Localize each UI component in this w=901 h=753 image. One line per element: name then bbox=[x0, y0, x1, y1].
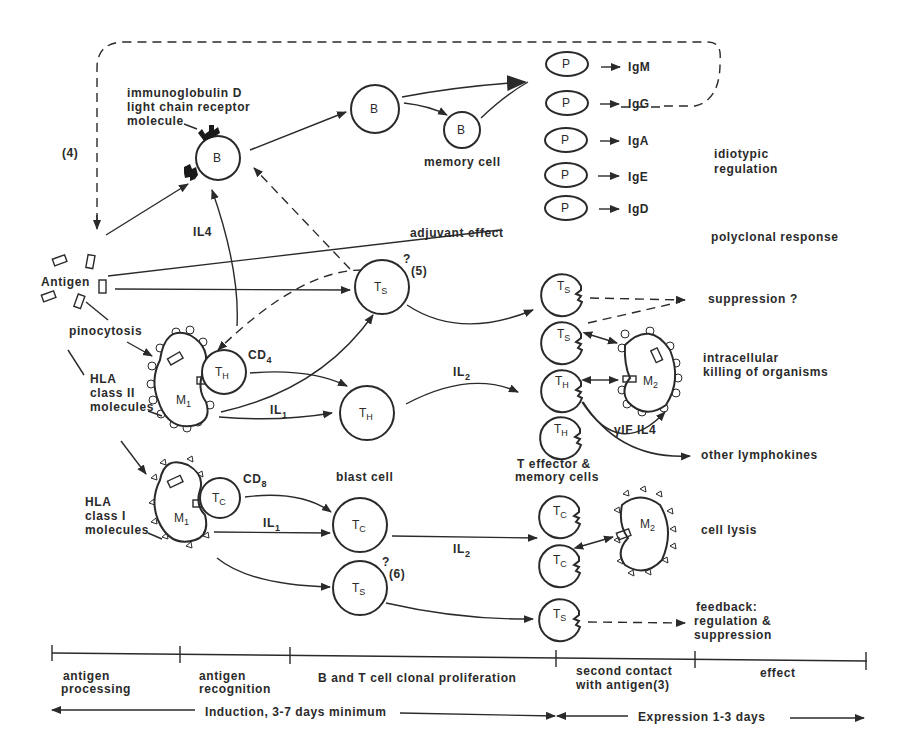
svg-text:IgG: IgG bbox=[628, 97, 650, 111]
plasma-cell-iga: P IgA bbox=[545, 128, 649, 152]
igd-receptor-icon bbox=[184, 164, 198, 181]
hla-class-ii-label-3: molecules bbox=[90, 400, 154, 414]
phase-antigen-processing: antigen bbox=[63, 669, 110, 683]
il1-lower-label: IL1 bbox=[263, 516, 280, 533]
svg-text:B: B bbox=[457, 123, 465, 137]
th-cell-on-m1: TH bbox=[202, 350, 246, 394]
effector-ts-cell-2: TS bbox=[541, 322, 582, 364]
antigen-label: Antigen bbox=[41, 275, 90, 289]
effector-th-cell-2: TH bbox=[540, 417, 581, 459]
phase-second-contact: second contact bbox=[576, 664, 672, 678]
immune-response-diagram: (4) B immunoglobulin D light chain recep… bbox=[0, 0, 901, 753]
hla-class-ii-label: HLA bbox=[90, 372, 116, 386]
hla-class-i-label-3: molecules bbox=[85, 523, 149, 537]
plasma-cell-igd: P IgD bbox=[545, 196, 649, 220]
suppression-label: suppression ? bbox=[708, 292, 798, 306]
cd4-label: CD4 bbox=[248, 348, 272, 365]
adjuvant-effect-label: adjuvant effect bbox=[410, 226, 504, 240]
effector-ts-cell-1: TS bbox=[541, 274, 582, 316]
idiotypic-regulation-label-2: regulation bbox=[714, 162, 778, 176]
il2-upper-label: IL2 bbox=[453, 365, 470, 382]
b-cell-naive: B bbox=[184, 125, 240, 181]
macrophage-m2-upper: M2 bbox=[618, 327, 682, 416]
hla-class-i-label-2: class I bbox=[85, 509, 126, 523]
timeline-axis bbox=[52, 645, 867, 670]
phase-clonal-proliferation: B and T cell clonal proliferation bbox=[318, 671, 517, 685]
idiotypic-feedback-loop bbox=[97, 42, 720, 222]
phase-antigen-processing-2: processing bbox=[61, 682, 131, 696]
svg-text:IgA: IgA bbox=[628, 134, 649, 148]
svg-text:IgE: IgE bbox=[628, 170, 648, 184]
plasma-cell-ige: P IgE bbox=[545, 163, 648, 187]
tc-cell-on-m1: TC bbox=[200, 478, 240, 518]
il2-lower-label: IL2 bbox=[453, 542, 470, 559]
plasma-cell-igg: P IgG bbox=[546, 91, 650, 115]
ts6-ref: (6) bbox=[389, 567, 405, 581]
induction-label: Induction, 3-7 days minimum bbox=[205, 705, 387, 719]
igd-receptor-label: immunoglobulin D bbox=[127, 86, 242, 100]
svg-text:B: B bbox=[213, 151, 221, 165]
cell-lysis-label: cell lysis bbox=[701, 523, 757, 537]
svg-text:P: P bbox=[561, 168, 569, 182]
other-lymphokines-label: other lymphokines bbox=[701, 448, 818, 462]
svg-text:IgM: IgM bbox=[628, 60, 650, 74]
svg-text:P: P bbox=[562, 96, 570, 110]
hla-class-ii-label-2: class II bbox=[90, 386, 135, 400]
cd8-label: CD8 bbox=[243, 472, 267, 489]
igd-receptor-label-3: molecule bbox=[127, 114, 184, 128]
svg-text:IgD: IgD bbox=[628, 202, 649, 216]
tc-blast-cell: TC bbox=[333, 498, 387, 552]
feedback-label-3: suppression bbox=[694, 628, 772, 642]
b-cell-activated: B bbox=[351, 85, 399, 133]
effector-ts-cell-3: TS bbox=[539, 599, 580, 641]
effector-tc-cell-1: TC bbox=[539, 496, 580, 538]
th-blast-cell: TH bbox=[340, 386, 394, 440]
expression-label: Expression 1-3 days bbox=[638, 710, 765, 724]
effector-th-cell-1: TH bbox=[541, 370, 582, 412]
t-effector-label: T effector & bbox=[517, 457, 591, 471]
igd-receptor-label-2: light chain receptor bbox=[127, 100, 250, 114]
phase-antigen-recognition: antigen bbox=[199, 669, 246, 683]
ts-cell-upper: TS bbox=[355, 260, 409, 314]
svg-text:P: P bbox=[562, 57, 570, 71]
feedback-label: feedback: bbox=[696, 600, 757, 614]
polyclonal-response-label: polyclonal response bbox=[711, 230, 838, 244]
hla-class-i-label: HLA bbox=[85, 495, 111, 509]
feedback-label-2: regulation & bbox=[694, 614, 771, 628]
intracellular-killing-label: intracellular bbox=[703, 351, 779, 365]
gif-il4-label: γIF IL4 bbox=[614, 423, 656, 437]
pinocytosis-label: pinocytosis bbox=[69, 324, 142, 338]
svg-text:P: P bbox=[561, 201, 569, 215]
intracellular-killing-label-2: killing of organisms bbox=[703, 365, 828, 379]
svg-text:P: P bbox=[561, 133, 569, 147]
phase-antigen-recognition-2: recognition bbox=[199, 682, 271, 696]
ts5-ref: (5) bbox=[411, 264, 427, 278]
idiotypic-regulation-label: idiotypic bbox=[714, 147, 769, 161]
t-effector-label-2: memory cells bbox=[515, 470, 599, 484]
b-memory-cell: B bbox=[444, 112, 480, 148]
blast-cell-label: blast cell bbox=[336, 470, 393, 484]
il4-label-top: IL4 bbox=[193, 225, 212, 239]
macrophage-m2-lower: M2 bbox=[614, 486, 676, 576]
svg-text:B: B bbox=[370, 102, 378, 116]
ts-cell-lower: TS bbox=[333, 561, 387, 615]
il1-upper-label: IL1 bbox=[270, 403, 287, 420]
phase-second-contact-2: with antigen(3) bbox=[575, 678, 670, 692]
plasma-cell-igm: P IgM bbox=[546, 52, 650, 76]
effector-tc-cell-2: TC bbox=[539, 545, 580, 587]
ts5-question: ? bbox=[403, 252, 411, 266]
phase-effect: effect bbox=[760, 666, 796, 680]
ref-4-label: (4) bbox=[62, 146, 78, 160]
plasma-cell-list: P IgM P IgG P IgA P IgE P IgD bbox=[545, 52, 650, 220]
memory-cell-label: memory cell bbox=[424, 155, 501, 169]
